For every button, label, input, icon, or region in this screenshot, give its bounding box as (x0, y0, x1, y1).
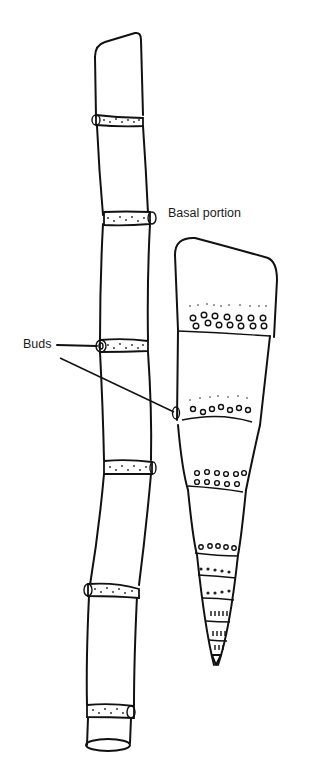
sugarcane-stalk-illustration (0, 0, 310, 782)
basal-portion-label: Basal portion (168, 206, 241, 220)
node-3 (96, 339, 148, 352)
buds-label: Buds (23, 337, 52, 351)
buds-leader-1 (57, 345, 97, 346)
full-stalk (84, 33, 156, 751)
node-1 (92, 115, 143, 126)
node-6 (87, 704, 135, 718)
node-stipple (92, 118, 147, 714)
basal-bud (173, 407, 180, 419)
node-5 (84, 584, 139, 598)
basal-stipple (189, 303, 267, 401)
basal-portion (173, 238, 278, 665)
buds-leader-2 (60, 358, 174, 412)
node-2 (104, 212, 156, 226)
node-4 (104, 460, 156, 474)
